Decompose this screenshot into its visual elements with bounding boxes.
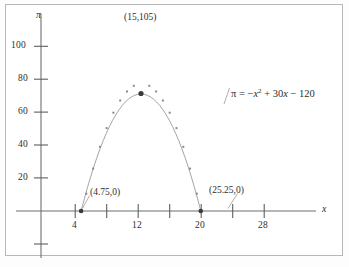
x-tick-label-4: 4 — [72, 221, 77, 231]
curve-marker — [155, 91, 157, 93]
y-axis-label: π — [36, 10, 41, 20]
curve-marker — [99, 146, 101, 148]
x-tick-label-12: 12 — [132, 221, 142, 231]
curve-marker — [112, 112, 114, 114]
root-right-annotation-label: (25.25,0) — [209, 186, 244, 196]
equation-annotation: π = −x2 + 30x − 120 — [231, 89, 315, 100]
equation-term2: + 30 — [264, 88, 283, 99]
equation-equals: = — [239, 88, 245, 99]
curve-marker — [126, 91, 128, 93]
equation-term1-exponent: 2 — [258, 87, 262, 95]
curve-marker — [176, 127, 178, 129]
curve-marker — [196, 193, 198, 195]
equation-leader-line — [224, 88, 230, 104]
curve-marker — [162, 100, 164, 102]
curve-marker — [189, 168, 191, 170]
vertex-annotation-label: (15,105) — [124, 13, 156, 23]
vertex-point-marker — [138, 91, 143, 96]
chart-plot-area — [0, 0, 349, 267]
root-left-annotation-label: (4.75,0) — [90, 188, 120, 198]
curve-marker — [169, 112, 171, 114]
curve-marker — [182, 146, 184, 148]
y-tick-label-60: 60 — [18, 107, 28, 117]
x-axis-label: x — [322, 204, 326, 214]
curve-marker — [148, 85, 150, 87]
curve-marker — [119, 100, 121, 102]
curve-marker — [133, 85, 135, 87]
y-tick-label-100: 100 — [11, 41, 26, 51]
curve-marker — [92, 168, 94, 170]
y-tick-label-40: 40 — [18, 140, 28, 150]
equation-term2-var: x — [283, 88, 288, 99]
curve-marker — [106, 127, 108, 129]
root-left-point-marker — [79, 209, 84, 214]
y-tick-label-80: 80 — [18, 74, 28, 84]
root-right-point-marker — [199, 209, 204, 214]
x-tick-label-20: 20 — [195, 221, 205, 231]
curve-marker — [85, 193, 87, 195]
equation-lhs: π — [231, 88, 236, 99]
equation-term3: − 120 — [291, 88, 315, 99]
y-tick-label-20: 20 — [18, 173, 28, 183]
x-tick-label-28: 28 — [258, 221, 268, 231]
parabola-chart-figure: π x 100 80 60 40 20 4 12 20 28 (15,105) … — [0, 0, 349, 267]
